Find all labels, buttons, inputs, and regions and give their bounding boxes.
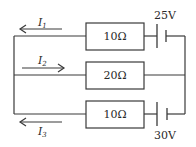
circuit-diagram: 10Ω 25V I1 20Ω I2 10Ω 30V I3 (0, 0, 196, 147)
branch-top: 10Ω 25V I1 (14, 9, 185, 50)
resistor-middle-label: 20Ω (103, 69, 126, 82)
branch-bottom: 10Ω 30V I3 (14, 101, 185, 142)
current-label-i1: I1 (37, 16, 47, 30)
current-label-i3: I3 (37, 125, 47, 139)
battery-top-label: 25V (154, 9, 177, 22)
battery-bottom-label: 30V (154, 129, 177, 142)
branch-middle: 20Ω I2 (14, 54, 185, 89)
resistor-bottom-label: 10Ω (103, 108, 126, 121)
resistor-top-label: 10Ω (103, 30, 126, 43)
current-label-i2: I2 (37, 54, 47, 68)
